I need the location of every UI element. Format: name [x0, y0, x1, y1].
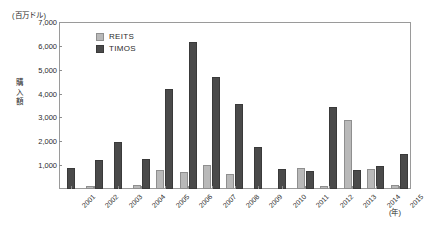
legend-swatch-timos: [96, 45, 104, 53]
x-tick-mark: [352, 186, 353, 189]
x-tick-mark: [329, 186, 330, 189]
legend-label-timos: TIMOS: [109, 44, 136, 53]
x-tick-mark: [94, 186, 95, 189]
legend-item-reits: REITS: [96, 32, 136, 41]
bar-timos-2012: [329, 107, 337, 189]
bar-timos-2015: [400, 154, 408, 189]
x-tick-mark: [305, 186, 306, 189]
x-tick-mark: [212, 186, 213, 189]
bar-reits-2014: [367, 169, 375, 189]
bar-reits-2007: [203, 165, 211, 189]
legend-swatch-reits: [96, 33, 104, 41]
bar-reits-2002: [86, 186, 94, 189]
bar-reits-2013: [344, 120, 352, 189]
x-tick-mark: [258, 186, 259, 189]
bar-reits-2005: [156, 170, 164, 189]
bar-timos-2014: [376, 166, 384, 189]
chart-legend: REITS TIMOS: [96, 32, 136, 53]
x-tick-mark: [71, 186, 72, 189]
bar-timos-2008: [235, 104, 243, 189]
bar-reits-2015: [391, 185, 399, 189]
x-tick-mark: [188, 186, 189, 189]
bar-reits-2006: [180, 172, 188, 189]
x-tick-mark: [399, 186, 400, 189]
x-tick-mark: [235, 186, 236, 189]
bar-group: [59, 0, 82, 230]
legend-item-timos: TIMOS: [96, 44, 136, 53]
x-tick-mark: [282, 186, 283, 189]
x-tick-mark: [118, 186, 119, 189]
bar-reits-2004: [133, 185, 141, 189]
bar-reits-2008: [226, 174, 234, 189]
bar-timos-2011: [306, 171, 314, 189]
bar-timos-2004: [142, 159, 150, 189]
bar-timos-2009: [254, 147, 262, 189]
bar-timos-2013: [353, 170, 361, 189]
x-tick-mark: [165, 186, 166, 189]
bar-timos-2007: [212, 77, 220, 189]
x-tick-mark: [141, 186, 142, 189]
bar-timos-2002: [95, 160, 103, 189]
bar-timos-2005: [165, 89, 173, 189]
x-tick-mark: [376, 186, 377, 189]
legend-label-reits: REITS: [109, 32, 134, 41]
x-axis-unit-label: (年): [389, 206, 401, 217]
bar-timos-2003: [114, 142, 122, 189]
bar-reits-2012: [320, 186, 328, 189]
bar-timos-2006: [189, 42, 197, 189]
bar-reits-2011: [297, 168, 305, 189]
